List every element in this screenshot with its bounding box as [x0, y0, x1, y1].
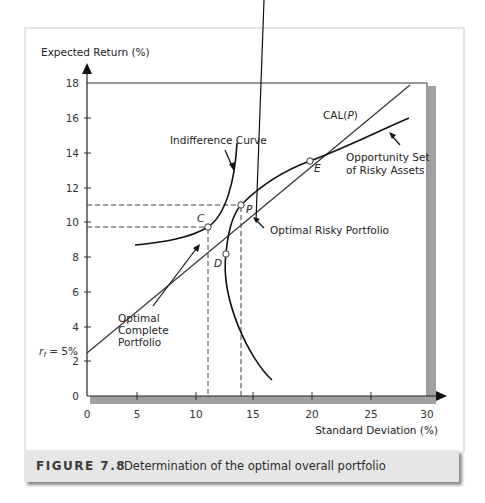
- optimal-complete-arrow-icon: [153, 244, 200, 306]
- point-d-marker: [223, 251, 229, 257]
- optimal-risky-label: Optimal Risky Portfolio: [270, 224, 389, 236]
- plot-shadow-bottom: [90, 396, 436, 404]
- svg-text:0: 0: [72, 390, 79, 402]
- opportunity-arrow-icon: [389, 132, 400, 145]
- optimal-complete-label-1: Optimal: [118, 312, 160, 324]
- svg-text:14: 14: [66, 147, 80, 159]
- opportunity-set-label-1: Opportunity Set: [346, 151, 430, 163]
- svg-text:18: 18: [66, 77, 79, 89]
- svg-text:20: 20: [305, 408, 318, 420]
- svg-text:16: 16: [66, 112, 80, 124]
- svg-text:10: 10: [189, 408, 202, 420]
- optimal-complete-label-2: Complete: [118, 324, 169, 336]
- x-tick-labels: 0 5 10 15 20 25 30: [84, 408, 434, 420]
- svg-text:15: 15: [246, 408, 259, 420]
- chart-canvas: 0 2 4 6 8 10 12 14 16 18 0 5 10 15 20 25…: [0, 0, 485, 503]
- indifference-curve: [135, 143, 237, 245]
- y-axis-arrow-icon: [82, 63, 92, 74]
- cal-label: CAL(P): [323, 109, 358, 121]
- point-d-label: D: [214, 257, 222, 269]
- point-p-marker: [238, 202, 244, 208]
- svg-text:0: 0: [84, 408, 91, 420]
- svg-text:4: 4: [72, 321, 79, 333]
- svg-text:8: 8: [72, 251, 79, 263]
- svg-text:30: 30: [420, 408, 433, 420]
- figure-caption: Determination of the optimal overall por…: [124, 459, 386, 473]
- figure-number: FIGURE 7.8: [36, 459, 126, 473]
- indifference-curve-label: Indifference Curve: [170, 134, 267, 146]
- rf-label: rf = 5%: [39, 345, 78, 359]
- optimal-risky-arrow-icon: [253, 0, 264, 228]
- y-axis-title: Expected Return (%): [41, 46, 150, 58]
- reference-lines: [87, 205, 241, 396]
- indifference-arrow-icon: [225, 150, 235, 171]
- optimal-complete-label-3: Portfolio: [118, 336, 161, 348]
- point-p-label: P: [246, 203, 253, 215]
- x-axis-title: Standard Deviation (%): [315, 424, 438, 436]
- point-c-label: C: [197, 212, 205, 224]
- svg-text:6: 6: [72, 286, 79, 298]
- point-e-label: E: [314, 162, 321, 174]
- point-c-marker: [205, 224, 211, 230]
- x-axis-arrow-icon: [436, 391, 447, 401]
- plot-shadow-right: [428, 86, 436, 400]
- figure-caption-bar: FIGURE 7.8 Determination of the optimal …: [24, 450, 459, 482]
- point-e-marker: [307, 158, 313, 164]
- svg-text:12: 12: [66, 182, 79, 194]
- svg-text:25: 25: [364, 408, 377, 420]
- svg-text:5: 5: [134, 408, 141, 420]
- svg-text:10: 10: [66, 216, 79, 228]
- opportunity-set-label-2: of Risky Assets: [346, 164, 425, 176]
